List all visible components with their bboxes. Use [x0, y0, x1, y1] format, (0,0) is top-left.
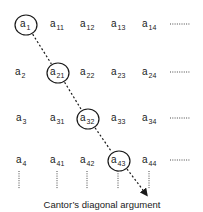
cell-a34: a34 — [142, 112, 156, 125]
cell-a24: a24 — [142, 66, 156, 79]
cantor-diagonal-diagram: a1a11a12a13a14a2a21a22a23a24a3a31a32a33a… — [0, 0, 203, 212]
cell-a32: a32 — [80, 112, 94, 125]
cell-a11: a11 — [50, 18, 64, 31]
cell-a14: a14 — [142, 18, 156, 31]
cell-a41: a41 — [50, 154, 64, 167]
cell-a22: a22 — [80, 66, 94, 79]
cell-a12: a12 — [80, 18, 94, 31]
cell-a21: a21 — [50, 66, 64, 79]
row-label-a1: a1 — [20, 18, 31, 31]
cell-a23: a23 — [111, 66, 125, 79]
diagonal-dashed-line — [33, 34, 52, 64]
diagonal-dashed-line — [65, 82, 82, 110]
cell-a43: a43 — [111, 154, 125, 167]
row-label-a2: a2 — [15, 66, 26, 79]
row-label-a3: a3 — [16, 112, 27, 125]
cell-a42: a42 — [80, 154, 94, 167]
cell-a33: a33 — [111, 112, 125, 125]
diagram-caption: Cantor’s diagonal argument — [44, 199, 161, 210]
cell-a44: a44 — [142, 154, 156, 167]
diagonal-arrow — [127, 169, 146, 194]
diagonal-dashed-line — [95, 128, 112, 152]
cell-a31: a31 — [50, 112, 64, 125]
cell-a13: a13 — [111, 18, 125, 31]
row-label-a4: a4 — [16, 154, 27, 167]
